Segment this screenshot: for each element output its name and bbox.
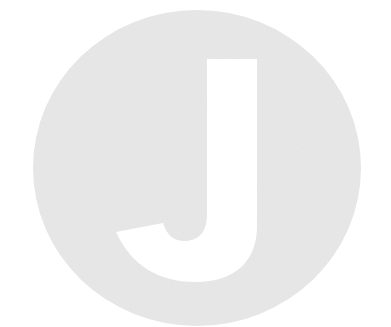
j-logo-icon [0, 0, 391, 327]
logo-container [0, 0, 391, 327]
